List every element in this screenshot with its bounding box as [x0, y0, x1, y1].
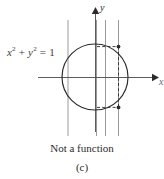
x-axis-label: x [159, 76, 163, 87]
circle-equation-label: x2 + y2 = 1 [7, 46, 55, 58]
upper-intersection-point [117, 45, 121, 49]
y-axis [92, 7, 99, 132]
x-axis [38, 74, 159, 81]
y-axis-label: y [100, 2, 104, 13]
x-axis-arrowhead [152, 74, 159, 81]
dashed-construction-lines [97, 47, 119, 108]
figure-panel-c: x2 + y2 = 1 y x Not a function (c) [0, 0, 164, 179]
panel-letter-caption: (c) [0, 161, 164, 173]
equation-right-hand-side: 1 [49, 46, 55, 58]
equation-plus-operator: + [16, 46, 28, 58]
lower-intersection-point [117, 106, 121, 110]
not-a-function-caption: Not a function [0, 142, 164, 154]
vertical-line-test-lines [68, 20, 119, 136]
y-axis-arrowhead [92, 7, 99, 14]
equation-equals-operator: = [37, 46, 49, 58]
